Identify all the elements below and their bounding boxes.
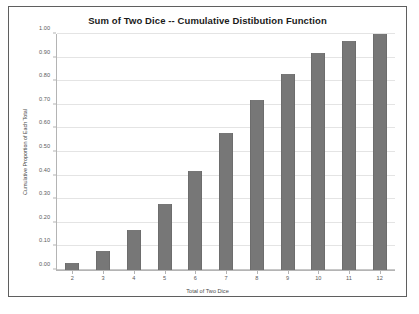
bar-slot xyxy=(149,34,180,270)
x-axis-ticks: 23456789101112 xyxy=(57,271,395,285)
x-tick-slot: 4 xyxy=(118,271,149,285)
bar[interactable] xyxy=(373,34,387,270)
x-tick-slot: 2 xyxy=(57,271,88,285)
y-tick-label: 0.90 xyxy=(39,49,50,55)
bar[interactable] xyxy=(127,230,141,270)
x-tick-mark xyxy=(72,271,73,274)
x-tick-label: 6 xyxy=(180,275,211,281)
bar[interactable] xyxy=(311,53,325,270)
y-tick-label: 0.60 xyxy=(39,119,50,125)
x-tick-label: 11 xyxy=(334,275,365,281)
x-axis-title: Total of Two Dice xyxy=(9,288,406,294)
x-tick-mark xyxy=(349,271,350,274)
x-tick-label: 5 xyxy=(149,275,180,281)
x-tick-slot: 6 xyxy=(180,271,211,285)
x-tick-label: 3 xyxy=(88,275,119,281)
x-tick-mark xyxy=(380,271,381,274)
bar[interactable] xyxy=(281,74,295,270)
y-tick-label: 0.00 xyxy=(39,261,50,267)
x-tick-slot: 12 xyxy=(364,271,395,285)
bar-slot xyxy=(334,34,365,270)
y-axis-ticks: 0.000.100.200.300.400.500.600.700.800.90… xyxy=(9,34,56,270)
x-tick-mark xyxy=(226,271,227,274)
bar[interactable] xyxy=(219,133,233,270)
x-tick-label: 7 xyxy=(211,275,242,281)
x-tick-label: 12 xyxy=(364,275,395,281)
y-tick-label: 0.80 xyxy=(39,72,50,78)
y-tick-label: 0.10 xyxy=(39,237,50,243)
bar-slot xyxy=(211,34,242,270)
x-tick-mark xyxy=(318,271,319,274)
x-tick-label: 10 xyxy=(303,275,334,281)
plot-area xyxy=(57,34,395,270)
x-tick-mark xyxy=(257,271,258,274)
bar[interactable] xyxy=(96,251,110,270)
x-tick-label: 4 xyxy=(118,275,149,281)
x-tick-label: 9 xyxy=(272,275,303,281)
x-tick-mark xyxy=(103,271,104,274)
y-tick-label: 0.50 xyxy=(39,143,50,149)
x-tick-slot: 8 xyxy=(241,271,272,285)
bar-slot xyxy=(241,34,272,270)
y-tick-label: 1.00 xyxy=(39,25,50,31)
bar-series xyxy=(57,34,395,270)
x-tick-slot: 5 xyxy=(149,271,180,285)
bar[interactable] xyxy=(65,263,79,270)
x-tick-mark xyxy=(134,271,135,274)
bar-slot xyxy=(303,34,334,270)
x-tick-mark xyxy=(195,271,196,274)
x-tick-slot: 9 xyxy=(272,271,303,285)
x-tick-mark xyxy=(288,271,289,274)
x-tick-slot: 7 xyxy=(211,271,242,285)
bar-slot xyxy=(118,34,149,270)
x-tick-mark xyxy=(165,271,166,274)
bar[interactable] xyxy=(250,100,264,270)
y-tick-label: 0.40 xyxy=(39,167,50,173)
bar-slot xyxy=(88,34,119,270)
chart-title: Sum of Two Dice -- Cumulative Distibutio… xyxy=(9,15,406,26)
x-tick-slot: 11 xyxy=(334,271,365,285)
x-tick-label: 2 xyxy=(57,275,88,281)
bar-slot xyxy=(364,34,395,270)
x-tick-slot: 10 xyxy=(303,271,334,285)
x-tick-slot: 3 xyxy=(88,271,119,285)
bar-slot xyxy=(57,34,88,270)
bar[interactable] xyxy=(188,171,202,270)
x-tick-label: 8 xyxy=(241,275,272,281)
y-tick-label: 0.30 xyxy=(39,190,50,196)
chart-frame: Sum of Two Dice -- Cumulative Distibutio… xyxy=(8,6,407,297)
y-tick-label: 0.70 xyxy=(39,96,50,102)
bar[interactable] xyxy=(158,204,172,270)
bar-slot xyxy=(180,34,211,270)
bar-slot xyxy=(272,34,303,270)
y-tick-label: 0.20 xyxy=(39,214,50,220)
bar[interactable] xyxy=(342,41,356,270)
